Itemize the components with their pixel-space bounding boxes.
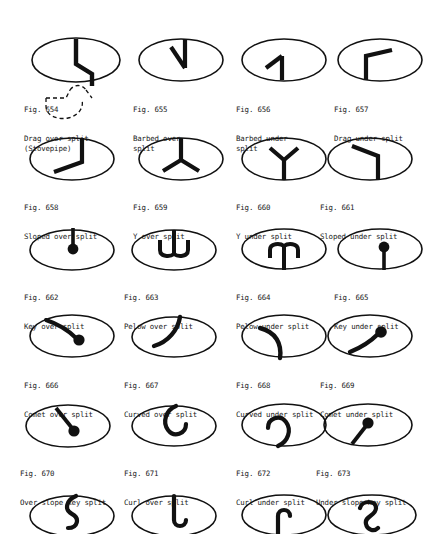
figure-663: Fig. 663 Pelow over split <box>124 224 234 276</box>
figure-658-number: Fig. 658 <box>24 203 97 213</box>
under-slope-key-split-icon <box>316 400 420 450</box>
figure-657-number: Fig. 657 <box>334 105 403 115</box>
figure-row6-item-2 <box>124 490 234 538</box>
figure-671-artwork <box>124 400 234 452</box>
barbed-under-split-icon <box>236 34 336 86</box>
figure-662-artwork <box>24 224 134 276</box>
pelow-under-split-icon <box>236 224 336 274</box>
figure-663-artwork <box>124 224 234 276</box>
over-slope-key-split-icon <box>20 400 120 450</box>
figure-670-artwork <box>20 400 130 452</box>
figure-664-number: Fig. 664 <box>236 293 309 303</box>
figure-655-artwork <box>133 34 243 86</box>
figure-656: Fig. 656 Barbed under split <box>236 34 346 86</box>
figure-666: Fig. 666 Comet over split <box>24 310 134 362</box>
figure-654-artwork <box>24 34 134 86</box>
hook-down-right-split-icon <box>124 490 224 534</box>
figure-670: Fig. 670 Over slope key split <box>20 400 130 452</box>
figure-669: Fig. 669 Comet under split <box>320 310 429 362</box>
figure-667-number: Fig. 667 <box>124 381 197 391</box>
figure-659-number: Fig. 659 <box>133 203 185 213</box>
figure-row6-item-1 <box>24 490 134 538</box>
figure-673-artwork <box>316 400 426 452</box>
figure-row6-item-4 <box>320 490 429 538</box>
figure-672-number: Fig. 672 <box>236 469 305 479</box>
figure-673-number: Fig. 673 <box>316 469 406 479</box>
figure-656-number: Fig. 656 <box>236 105 288 115</box>
comet-under-split-icon <box>320 310 420 362</box>
figure-654-number: Fig. 654 <box>24 105 89 115</box>
barbed-over-split-icon <box>133 34 233 86</box>
figure-671: Fig. 671 Curl over split <box>124 400 234 452</box>
sloped-under-split-icon <box>320 134 420 184</box>
figure-658-artwork <box>24 134 134 186</box>
curved-over-split-icon <box>124 310 224 362</box>
question-hook-split-icon <box>320 490 424 534</box>
figure-row6-item-1-artwork <box>24 490 134 538</box>
figure-657-artwork <box>334 34 429 86</box>
figure-655: Fig. 655 Barbed over split <box>133 34 243 86</box>
figure-656-artwork <box>236 34 346 86</box>
figure-660-number: Fig. 660 <box>236 203 292 213</box>
comet-over-split-icon <box>24 310 124 362</box>
hook-down-left-split-icon <box>24 490 124 534</box>
figure-667: Fig. 667 Curved over split <box>124 310 234 362</box>
key-over-split-icon <box>24 224 124 274</box>
figure-669-artwork <box>320 310 429 362</box>
figure-663-number: Fig. 663 <box>124 293 193 303</box>
curl-over-split-icon <box>124 400 224 450</box>
figure-665: Fig. 665 Key under split <box>334 224 429 276</box>
figure-661-number: Fig. 661 <box>320 203 397 213</box>
figure-673: Fig. 673 Under slope key split <box>316 400 426 452</box>
figure-666-number: Fig. 666 <box>24 381 93 391</box>
figure-665-number: Fig. 665 <box>334 293 399 303</box>
figure-668-number: Fig. 668 <box>236 381 313 391</box>
figure-657: Fig. 657 Drag under split <box>334 34 429 86</box>
figure-664-artwork <box>236 224 346 276</box>
figure-667-artwork <box>124 310 234 362</box>
sloped-over-split-icon <box>24 134 124 184</box>
drag-under-split-icon <box>334 34 429 86</box>
figure-662: Fig. 662 Key over split <box>24 224 134 276</box>
figure-row6-item-2-artwork <box>124 490 234 538</box>
figure-669-number: Fig. 669 <box>320 381 393 391</box>
key-under-split-icon <box>334 224 429 274</box>
figure-665-artwork <box>334 224 429 276</box>
figure-659-artwork <box>133 134 243 186</box>
figure-659: Fig. 659 Y over split <box>133 134 243 186</box>
pelow-over-split-icon <box>124 224 224 274</box>
figure-658: Fig. 658 Sloped over split <box>24 134 134 186</box>
y-over-split-icon <box>133 134 233 184</box>
figure-661: Fig. 661 Sloped under split <box>320 134 429 186</box>
figure-666-artwork <box>24 310 134 362</box>
figure-670-number: Fig. 670 <box>20 469 106 479</box>
figure-654: Fig. 654 Drag over split (Stovepipe) <box>24 34 134 86</box>
figure-655-number: Fig. 655 <box>133 105 180 115</box>
figure-661-artwork <box>320 134 429 186</box>
figure-662-number: Fig. 662 <box>24 293 84 303</box>
figure-671-number: Fig. 671 <box>124 469 189 479</box>
figure-row6-item-4-artwork <box>320 490 429 538</box>
figure-664: Fig. 664 Pelow under split <box>236 224 346 276</box>
